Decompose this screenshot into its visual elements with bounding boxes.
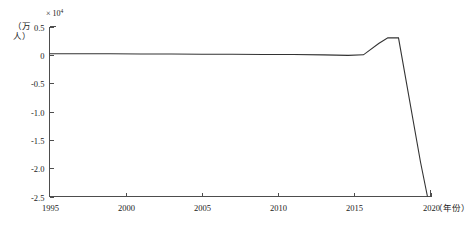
chart-figure: （万人） × 104 0.50-0.5-1.0-1.5-2.0-2.5 1995… (0, 0, 473, 229)
x-tick-label: 2000 (118, 203, 135, 213)
exponent-value: 4 (61, 8, 64, 14)
series-group (50, 38, 428, 197)
x-tick-label: 2015 (346, 203, 363, 213)
y-axis-ticks: 0.50-0.5-1.0-1.5-2.0-2.5 (31, 23, 53, 203)
x-tick-label: 2010 (270, 203, 287, 213)
y-exponent-annotation: × 104 (46, 8, 64, 18)
svg-text:× 104: × 104 (46, 8, 64, 18)
y-tick-label: 0 (40, 51, 44, 61)
plot-frame (50, 27, 431, 197)
y-tick-label: -2.0 (31, 164, 44, 174)
x-tick-label: 1995 (42, 203, 59, 213)
data-series-line (50, 38, 428, 197)
y-tick-label: -1.0 (31, 108, 44, 118)
line-chart-plot: × 104 0.50-0.5-1.0-1.5-2.0-2.5 199520002… (0, 0, 473, 229)
x-tick-label: 2005 (194, 203, 211, 213)
y-tick-label: -1.5 (31, 136, 44, 146)
y-tick-label: 0.5 (34, 23, 45, 33)
exponent-prefix: × 10 (46, 9, 61, 18)
y-tick-label: -2.5 (31, 193, 44, 203)
y-tick-label: -0.5 (31, 79, 44, 89)
x-axis-ticks: 199520002005201020152020 (42, 193, 440, 213)
x-axis-unit-label: （年份） (434, 203, 470, 213)
